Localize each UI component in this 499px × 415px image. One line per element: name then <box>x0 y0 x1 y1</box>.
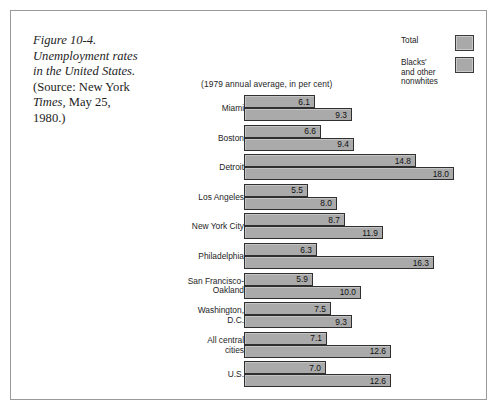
bar-value-label: 8.0 <box>320 199 332 207</box>
bar-value-label: 5.5 <box>291 186 303 194</box>
category-label: San Francisco-Oakland <box>124 277 244 297</box>
bar-total: 7.0 <box>244 361 326 374</box>
category-label-line: Washington, <box>124 306 244 316</box>
bar-value-label: 12.6 <box>370 377 386 385</box>
bar-value-label: 7.0 <box>309 364 321 372</box>
bar-nonwhites: 9.4 <box>244 138 354 151</box>
bar-value-label: 8.7 <box>328 216 340 224</box>
bar-group: 14.818.0 <box>244 154 454 180</box>
bar-value-label: 11.9 <box>362 229 378 237</box>
bar-nonwhites: 12.6 <box>244 374 391 387</box>
category-label-line: Boston <box>124 134 244 144</box>
caption-year: 1980.) <box>33 111 66 125</box>
bar-value-label: 6.1 <box>298 97 310 105</box>
legend-item-total: Total <box>401 35 493 51</box>
legend-label-nonwhites: Blacks' and other nonwhites <box>401 57 451 87</box>
bar-value-label: 9.3 <box>335 317 347 325</box>
bar-total: 5.5 <box>244 184 308 197</box>
bar-total: 6.6 <box>244 125 321 138</box>
caption-line-3: in the United States. <box>33 64 193 80</box>
bar-value-label: 14.8 <box>395 156 411 164</box>
category-label: Los Angeles <box>124 193 244 203</box>
caption-line-2: Unemployment rates <box>33 49 193 65</box>
bar-total: 6.3 <box>244 243 317 256</box>
bar-value-label: 12.6 <box>370 347 386 355</box>
legend-swatch-nonwhites <box>455 57 474 73</box>
bar-value-label: 7.5 <box>314 304 326 312</box>
bar-group: 5.58.0 <box>244 184 337 210</box>
figure-frame: Figure 10-4. Unemployment rates in the U… <box>10 10 487 400</box>
category-label: Washington,D.C. <box>124 306 244 326</box>
bar-nonwhites: 9.3 <box>244 315 352 328</box>
category-label-line: cities <box>124 346 244 356</box>
bar-nonwhites: 9.3 <box>244 108 352 121</box>
category-label-line: New York City <box>124 222 244 232</box>
category-label: Miami <box>124 104 244 114</box>
legend-label-nonwhites-line-3: nonwhites <box>401 77 451 87</box>
bar-group: 8.711.9 <box>244 213 383 239</box>
category-label: U.S. <box>124 370 244 380</box>
caption-line-1: Figure 10-4. <box>33 33 193 49</box>
chart-subtitle: (1979 annual average, in per cent) <box>201 79 332 89</box>
bar-value-label: 5.9 <box>296 275 308 283</box>
bar-value-label: 7.1 <box>310 334 322 342</box>
caption-date: May 25, <box>66 95 111 109</box>
legend-label-total: Total <box>401 35 451 46</box>
bar-nonwhites: 12.6 <box>244 345 391 358</box>
chart-legend: Total Blacks' and other nonwhites <box>401 35 493 93</box>
bar-group: 5.910.0 <box>244 273 361 299</box>
caption-line-4: (Source: New York <box>33 80 193 96</box>
category-label-line: Philadelphia <box>124 252 244 262</box>
bar-group: 6.316.3 <box>244 243 434 269</box>
bar-total: 5.9 <box>244 273 313 286</box>
bar-value-label: 10.0 <box>340 288 356 296</box>
bar-group: 7.59.3 <box>244 302 352 328</box>
bar-group: 7.112.6 <box>244 332 391 358</box>
caption-source-text: (Source: New York <box>33 80 130 94</box>
bar-total: 6.1 <box>244 95 315 108</box>
category-label: Philadelphia <box>124 252 244 262</box>
bar-nonwhites: 16.3 <box>244 256 434 269</box>
category-label-line: Oakland <box>124 286 244 296</box>
bar-group: 6.69.4 <box>244 125 354 151</box>
bar-total: 7.5 <box>244 302 331 315</box>
category-label-line: Miami <box>124 104 244 114</box>
legend-label-nonwhites-line-2: and other <box>401 68 451 78</box>
category-label-line: Detroit <box>124 163 244 173</box>
legend-item-nonwhites: Blacks' and other nonwhites <box>401 57 493 87</box>
category-label-line: Los Angeles <box>124 193 244 203</box>
legend-label-nonwhites-line-1: Blacks' <box>401 58 451 68</box>
category-label-line: U.S. <box>124 370 244 380</box>
bar-total: 8.7 <box>244 213 345 226</box>
bar-nonwhites: 18.0 <box>244 167 454 180</box>
category-label: New York City <box>124 222 244 232</box>
bar-value-label: 6.3 <box>300 245 312 253</box>
bar-total: 14.8 <box>244 154 416 167</box>
bar-total: 7.1 <box>244 332 327 345</box>
legend-swatch-total <box>455 35 474 51</box>
bar-value-label: 9.4 <box>337 140 349 148</box>
chart-plot-area: Miami6.19.3Boston6.69.4Detroit14.818.0Lo… <box>201 95 481 395</box>
bar-value-label: 9.3 <box>335 110 347 118</box>
category-label-line: D.C. <box>124 316 244 326</box>
bar-value-label: 16.3 <box>413 258 429 266</box>
caption-publication: Times, <box>33 95 66 109</box>
bar-group: 6.19.3 <box>244 95 352 121</box>
bar-nonwhites: 11.9 <box>244 226 383 239</box>
bar-group: 7.012.6 <box>244 361 391 387</box>
category-label: Boston <box>124 134 244 144</box>
bar-nonwhites: 10.0 <box>244 286 361 299</box>
bar-nonwhites: 8.0 <box>244 197 337 210</box>
bar-value-label: 18.0 <box>433 169 449 177</box>
category-label: All centralcities <box>124 336 244 356</box>
bar-value-label: 6.6 <box>304 127 316 135</box>
figure-page: Figure 10-4. Unemployment rates in the U… <box>0 0 499 415</box>
category-label: Detroit <box>124 163 244 173</box>
